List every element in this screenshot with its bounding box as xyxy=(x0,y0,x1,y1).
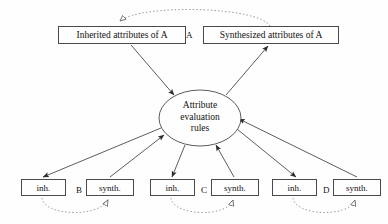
node-inh-d[interactable]: inh. xyxy=(272,179,317,196)
label-symbol-d: D xyxy=(323,185,330,195)
node-synth-b-label: synth. xyxy=(99,183,121,193)
edge-rules-to-inh-c xyxy=(172,145,185,177)
ellipse-line-2: evaluation xyxy=(159,112,241,124)
edge-rules-to-synthesized-a xyxy=(226,46,268,95)
node-synth-c[interactable]: synth. xyxy=(211,179,259,196)
node-synth-c-label: synth. xyxy=(224,183,246,193)
label-symbol-a: A xyxy=(186,30,193,40)
node-inh-c[interactable]: inh. xyxy=(150,179,195,196)
edge-synth-b-to-rules xyxy=(110,135,164,177)
dotted-arc-c xyxy=(171,198,233,213)
ellipse-line-1: Attribute xyxy=(159,100,241,112)
dotted-arc-d xyxy=(293,198,355,213)
label-symbol-c: C xyxy=(201,185,207,195)
node-synth-b[interactable]: synth. xyxy=(86,179,134,196)
edge-rules-to-inh-b xyxy=(43,128,161,177)
edge-inherited-a-to-rules xyxy=(131,45,174,95)
node-inh-c-label: inh. xyxy=(166,183,180,193)
node-synth-d-label: synth. xyxy=(346,183,368,193)
attribute-evaluation-rules-label: Attribute evaluation rules xyxy=(159,100,241,135)
dotted-arc-b xyxy=(42,198,108,213)
ellipse-line-3: rules xyxy=(159,123,241,135)
node-inherited-attributes-a-label: Inherited attributes of A xyxy=(76,30,167,40)
node-inherited-attributes-a[interactable]: Inherited attributes of A xyxy=(58,26,186,44)
label-symbol-b: B xyxy=(76,185,82,195)
node-synth-d[interactable]: synth. xyxy=(333,179,381,196)
node-synthesized-attributes-a-label: Synthesized attributes of A xyxy=(220,30,323,40)
node-inh-b[interactable]: inh. xyxy=(21,179,66,196)
edge-synth-d-to-rules xyxy=(239,119,357,177)
edge-synth-c-to-rules xyxy=(216,145,234,177)
diagram-canvas: Inherited attributes of A A Synthesized … xyxy=(0,0,388,224)
node-synthesized-attributes-a[interactable]: Synthesized attributes of A xyxy=(203,26,339,44)
node-inh-d-label: inh. xyxy=(288,183,302,193)
dotted-arc-a xyxy=(120,10,270,26)
node-inh-b-label: inh. xyxy=(37,183,51,193)
edge-rules-to-inh-d xyxy=(237,129,296,177)
